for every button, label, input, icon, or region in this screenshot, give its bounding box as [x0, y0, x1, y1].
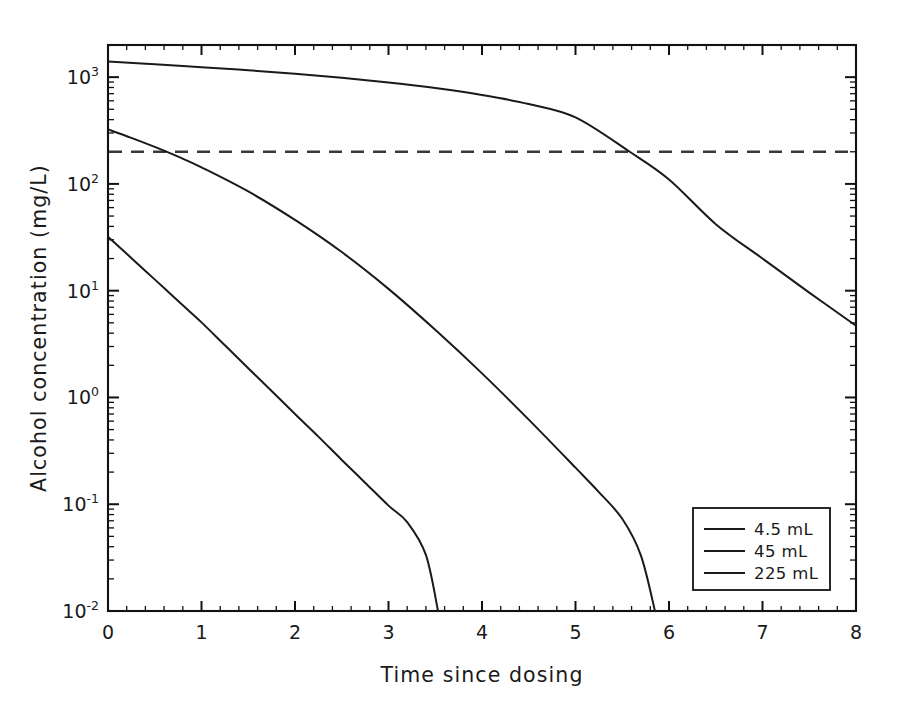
x-axis-title: Time since dosing	[379, 663, 583, 687]
x-tick-label: 4	[476, 621, 488, 643]
alcohol-concentration-line-chart: 10-210-1100101102103 012345678 Time sinc…	[0, 0, 900, 711]
chart-legend[interactable]: 4.5 mL45 mL225 mL	[693, 508, 830, 590]
x-tick-label: 2	[289, 621, 301, 643]
x-tick-label: 3	[382, 621, 394, 643]
legend-label[interactable]: 4.5 mL	[754, 520, 814, 539]
chart-figure: 10-210-1100101102103 012345678 Time sinc…	[0, 0, 900, 711]
y-axis-title: Alcohol concentration (mg/L)	[27, 164, 51, 492]
x-tick-label: 1	[195, 621, 207, 643]
x-tick-label: 0	[102, 621, 114, 643]
x-tick-label: 5	[569, 621, 581, 643]
chart-background	[0, 0, 900, 711]
legend-label[interactable]: 45 mL	[754, 542, 808, 561]
x-tick-label: 6	[663, 621, 675, 643]
legend-label[interactable]: 225 mL	[754, 564, 819, 583]
x-tick-label: 7	[756, 621, 768, 643]
x-tick-label: 8	[850, 621, 862, 643]
